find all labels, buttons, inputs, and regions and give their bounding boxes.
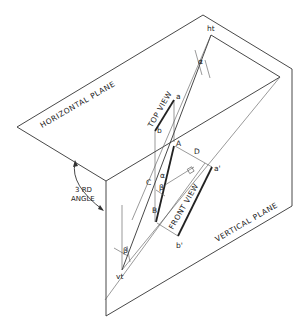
point-a-prime: a' [214,164,221,173]
alpha-symbol-top: α [198,57,203,66]
point-a: a [176,92,181,101]
vertical-plane-label: VERTICAL PLANE [214,200,280,243]
point-b-prime: b' [176,241,183,250]
trace-lines [105,35,280,300]
angle-ticks [114,50,210,262]
point-b: b [157,126,162,135]
beta-symbol-bottom: β [123,246,128,255]
beta-symbol-mid: β [159,183,164,192]
point-C: C [146,178,151,187]
point-ht: ht [207,24,215,33]
horizontal-plane [17,15,292,181]
alpha-symbol-mid: α [160,171,165,180]
horizontal-plane-label: HORIZONTAL PLANE [39,79,117,129]
point-D: D [194,147,200,156]
point-A: A [176,139,182,148]
third-angle-label-line2: ANGLE [71,195,95,203]
third-angle-label-line1: 3 RD [75,186,92,194]
point-vt: vt [116,272,123,281]
point-B: B [152,206,157,215]
projection-diagram: HORIZONTAL PLANE VERTICAL PLANE TOP VIEW… [0,0,302,329]
